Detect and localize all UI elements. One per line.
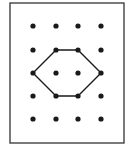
hexagon-shape — [33, 50, 101, 96]
grid-dot-r3-c1 — [53, 93, 58, 98]
grid-dot-r3-c2 — [75, 93, 80, 98]
grid-dot-r2-c0 — [30, 70, 35, 75]
grid-dot-r4-c0 — [30, 116, 35, 121]
grid-dot-r0-c0 — [30, 23, 35, 28]
dot-grid-diagram — [0, 0, 129, 151]
grid-dot-r4-c3 — [98, 116, 103, 121]
grid-dot-r1-c2 — [75, 47, 80, 52]
frame-border — [10, 3, 124, 143]
grid-dot-r1-c3 — [98, 47, 103, 52]
grid-dot-r2-c2 — [75, 70, 80, 75]
grid-dot-r4-c1 — [53, 116, 58, 121]
grid-dot-r2-c1 — [53, 70, 58, 75]
grid-dot-r1-c1 — [53, 47, 58, 52]
grid-dot-r3-c0 — [30, 93, 35, 98]
grid-dot-r0-c3 — [98, 23, 103, 28]
grid-dot-r1-c0 — [30, 47, 35, 52]
grid-dot-r0-c2 — [75, 23, 80, 28]
grid-dot-r3-c3 — [98, 93, 103, 98]
grid-dot-r2-c3 — [98, 70, 103, 75]
dot-grid — [30, 23, 103, 121]
grid-dot-r0-c1 — [53, 23, 58, 28]
grid-dot-r4-c2 — [75, 116, 80, 121]
